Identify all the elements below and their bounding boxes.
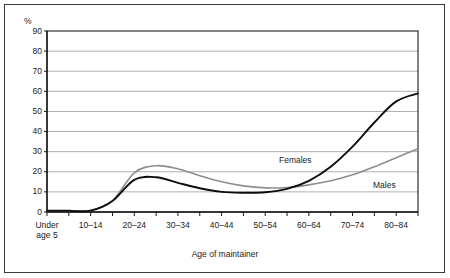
y-axis-unit-label: % <box>24 16 32 26</box>
x-tick-label: 80–84 <box>369 220 423 230</box>
y-tick-label: 80 <box>16 46 42 56</box>
y-tick-label: 10 <box>16 186 42 196</box>
chart-figure: % 0102030405060708090 Underage 510–1420–… <box>0 0 450 278</box>
x-axis-title: Age of maintainer <box>0 249 450 259</box>
y-tick-label: 20 <box>16 166 42 176</box>
y-tick-label: 0 <box>16 207 42 217</box>
series-label-females: Females <box>278 155 313 165</box>
series-label-males: Males <box>372 180 397 190</box>
y-tick-label: 60 <box>16 86 42 96</box>
y-tick-label: 90 <box>16 26 42 36</box>
y-tick-label: 70 <box>16 66 42 76</box>
y-tick-label: 40 <box>16 126 42 136</box>
y-tick-label: 50 <box>16 106 42 116</box>
y-tick-label: 30 <box>16 146 42 156</box>
